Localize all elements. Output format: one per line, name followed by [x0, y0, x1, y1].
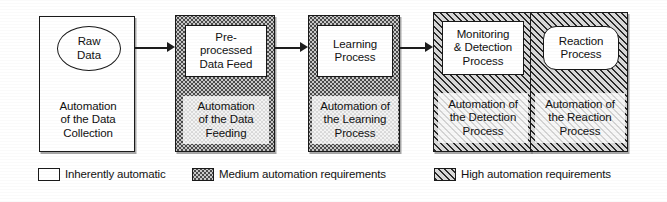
node-preprocessed-data-feed[interactable]: Pre-processedData Feed — [185, 25, 267, 77]
node-learning-process[interactable]: LearningProcess — [317, 25, 393, 77]
arrow-head — [425, 42, 433, 52]
caption-data-collection: Automationof the DataCollection — [42, 95, 134, 145]
node-reaction-process-label: ReactionProcess — [559, 35, 604, 62]
stage-learning[interactable]: LearningProcess Automation ofthe Learnin… — [308, 15, 400, 152]
process-automation-diagram: RawData Automationof the DataCollection … — [0, 0, 667, 202]
node-learning-process-label: LearningProcess — [333, 38, 377, 65]
arrow-shaft — [135, 47, 168, 49]
arrow-learning-to-detection — [400, 42, 433, 53]
arrow-shaft — [400, 47, 426, 49]
arrow-feeding-to-learning — [275, 42, 308, 53]
legend-swatch-high-icon — [434, 168, 456, 181]
process-flow: RawData Automationof the DataCollection … — [0, 0, 667, 160]
node-preprocessed-data-feed-label: Pre-processedData Feed — [200, 31, 253, 71]
legend-item-medium-automation[interactable]: Medium automation requirements — [192, 168, 386, 181]
node-reaction-process[interactable]: ReactionProcess — [543, 26, 619, 70]
arrow-collection-to-feeding — [135, 42, 175, 53]
arrow-head — [167, 42, 175, 52]
arrow-head — [300, 42, 308, 52]
node-monitoring-detection-process-label: Monitoring& DetectionProcess — [454, 28, 512, 68]
stage-reaction[interactable]: ReactionProcess Automation ofthe Reactio… — [530, 12, 628, 152]
node-raw-data-label: RawData — [77, 35, 101, 62]
caption-data-feeding: Automationof the DataFeeding — [183, 96, 269, 144]
stage-data-feeding[interactable]: Pre-processedData Feed Automationof the … — [175, 15, 275, 152]
legend-label-high-automation: High automation requirements — [461, 168, 611, 181]
caption-detection: Automation ofthe DetectionProcess — [438, 93, 528, 143]
arrow-shaft — [275, 47, 301, 49]
legend-swatch-plain-icon — [38, 168, 60, 181]
stage-data-collection[interactable]: RawData Automationof the DataCollection — [39, 16, 135, 152]
stage-monitoring-detection[interactable]: Monitoring& DetectionProcess Automation … — [433, 12, 531, 152]
node-monitoring-detection-process[interactable]: Monitoring& DetectionProcess — [442, 21, 524, 75]
legend-item-inherently-automatic[interactable]: Inherently automatic — [38, 168, 166, 181]
legend-label-inherently-automatic: Inherently automatic — [65, 168, 166, 181]
node-raw-data[interactable]: RawData — [57, 26, 121, 71]
legend: Inherently automatic Medium automation r… — [0, 160, 667, 202]
caption-learning: Automation ofthe LearningProcess — [312, 96, 398, 144]
legend-item-high-automation[interactable]: High automation requirements — [434, 168, 611, 181]
legend-label-medium-automation: Medium automation requirements — [219, 168, 386, 181]
legend-swatch-medium-icon — [192, 168, 214, 181]
caption-reaction: Automation ofthe ReactionProcess — [535, 93, 625, 143]
